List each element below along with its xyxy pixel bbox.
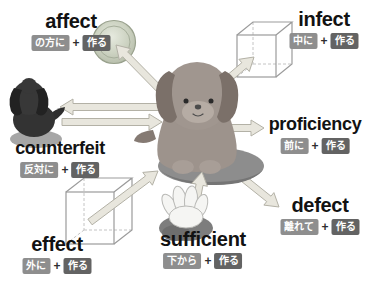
root-meaning-badge: 作る <box>83 35 111 51</box>
word-group-defect: defect 離れて + 作る <box>280 194 359 235</box>
plus-sign: + <box>321 221 328 233</box>
word-group-infect: infect 中に + 作る <box>289 8 358 49</box>
prefix-meaning-badge: 中に <box>289 33 317 49</box>
word-group-sufficient: sufficient 下から + 作る <box>160 228 246 269</box>
meaning-badges: の方に + 作る <box>31 35 110 51</box>
root-meaning-badge: 作る <box>72 162 100 178</box>
root-meaning-badge: 作る <box>332 219 360 235</box>
meaning-badges: 反対に + 作る <box>15 162 105 178</box>
plus-sign: + <box>72 37 79 49</box>
effect-arrow <box>88 171 158 225</box>
word-label-infect: infect <box>289 8 358 30</box>
plus-sign: + <box>61 164 68 176</box>
prefix-meaning-badge: 離れて <box>280 219 318 235</box>
counter-arrow-right <box>62 114 162 130</box>
word-group-affect: affect の方に + 作る <box>31 10 110 51</box>
meaning-badges: 中に + 作る <box>289 33 358 49</box>
root-meaning-badge: 作る <box>322 138 350 154</box>
root-meaning-badge: 作る <box>64 258 92 274</box>
meaning-badges: 外に + 作る <box>22 258 91 274</box>
word-label-effect: effect <box>22 233 91 255</box>
root-meaning-badge: 作る <box>215 253 243 269</box>
plus-sign: + <box>53 260 60 272</box>
root-meaning-badge: 作る <box>331 33 359 49</box>
counter-arrow-left <box>60 99 160 115</box>
meaning-badges: 離れて + 作る <box>280 219 359 235</box>
prefix-meaning-badge: 前に <box>280 138 308 154</box>
plus-sign: + <box>311 140 318 152</box>
prefix-meaning-badge: 下から <box>163 253 201 269</box>
prefix-meaning-badge: の方に <box>31 35 69 51</box>
word-group-effect: effect 外に + 作る <box>22 233 91 274</box>
word-label-proficiency: proficiency <box>269 113 362 135</box>
word-label-defect: defect <box>280 194 359 216</box>
plus-sign: + <box>204 255 211 267</box>
meaning-badges: 前に + 作る <box>269 138 362 154</box>
prefix-meaning-badge: 外に <box>22 258 50 274</box>
meaning-badges: 下から + 作る <box>160 253 246 269</box>
word-group-counterfeit: counterfeit 反対に + 作る <box>15 137 105 178</box>
word-label-counterfeit: counterfeit <box>15 137 105 159</box>
vocabulary-diagram: affect の方に + 作る infect 中に + 作る counterfe… <box>0 0 370 286</box>
word-label-affect: affect <box>31 10 110 32</box>
plus-sign: + <box>320 35 327 47</box>
prefix-meaning-badge: 反対に <box>20 162 58 178</box>
word-label-sufficient: sufficient <box>160 228 246 250</box>
word-group-proficiency: proficiency 前に + 作る <box>269 113 362 154</box>
